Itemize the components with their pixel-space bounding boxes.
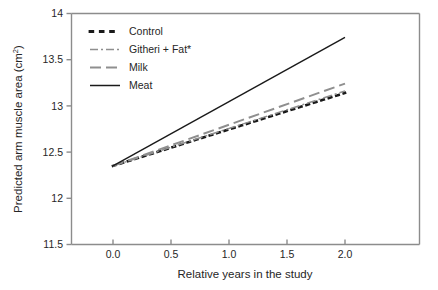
- x-tick-label: 0.5: [164, 248, 179, 260]
- legend-label-meat: Meat: [129, 79, 152, 91]
- legend-label-githeri-fat: Githeri + Fat*: [129, 43, 191, 55]
- y-tick-label: 11.5: [43, 238, 63, 250]
- y-axis-title: Predicted arm muscle area (cm2): [11, 45, 24, 213]
- chart-background: [0, 0, 438, 290]
- y-axis-title-tail: ): [12, 45, 24, 49]
- legend-label-milk: Milk: [129, 61, 148, 73]
- y-axis-title-main: Predicted arm muscle area (cm: [12, 53, 24, 213]
- x-axis-title: Relative years in the study: [178, 268, 313, 280]
- y-tick-label: 12: [51, 192, 63, 204]
- x-tick-label: 1.5: [280, 248, 295, 260]
- x-tick-label: 2.0: [338, 248, 353, 260]
- y-tick-label: 13: [51, 100, 63, 112]
- y-tick-label: 12.5: [43, 146, 64, 158]
- x-tick-label: 0.0: [106, 248, 121, 260]
- x-tick-label: 1.0: [222, 248, 237, 260]
- y-tick-label: 14: [51, 7, 63, 19]
- svg-text:Predicted arm muscle area (cm2: Predicted arm muscle area (cm2): [11, 45, 24, 213]
- y-tick-label: 13.5: [43, 53, 64, 65]
- line-chart: 14 13.5 13 12.5 12 11.5 0.0 0.5 1.0 1.5 …: [0, 0, 438, 290]
- chart-figure: 14 13.5 13 12.5 12 11.5 0.0 0.5 1.0 1.5 …: [0, 0, 438, 290]
- legend-label-control: Control: [129, 25, 163, 37]
